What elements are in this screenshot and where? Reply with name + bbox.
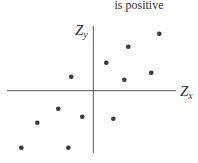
scatter-diagram: is positive Zy Zx: [0, 0, 198, 163]
data-point: [157, 31, 162, 36]
x-axis-label: Zx: [180, 83, 193, 101]
data-point: [122, 77, 127, 82]
data-point: [149, 70, 154, 75]
data-point: [35, 120, 40, 125]
data-point: [69, 74, 74, 79]
data-point: [126, 44, 131, 49]
x-axis-subscript: x: [187, 90, 193, 101]
data-point: [56, 106, 61, 111]
y-axis-label: Zy: [75, 22, 88, 40]
caption-text: is positive: [114, 0, 163, 12]
data-point: [111, 116, 116, 121]
data-point: [80, 114, 85, 119]
data-point: [104, 60, 109, 65]
y-axis-subscript: y: [82, 29, 88, 40]
data-point: [66, 145, 71, 150]
data-point: [19, 145, 24, 150]
